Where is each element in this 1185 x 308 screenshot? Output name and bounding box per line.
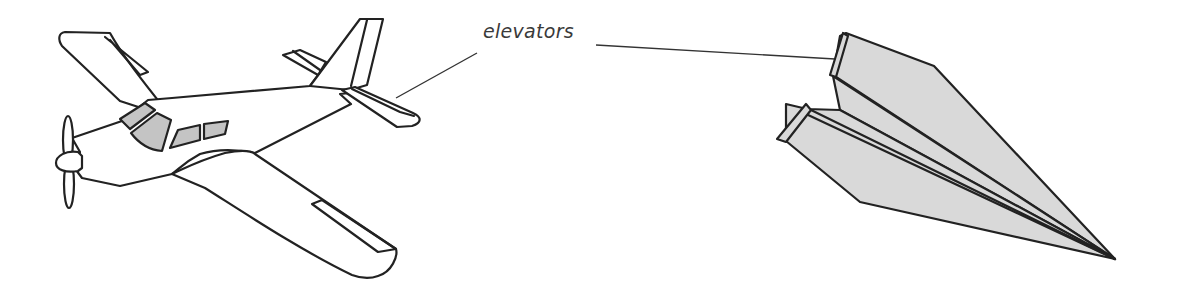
diagram-canvas: elevators: [0, 0, 1185, 308]
elevators-label: elevators: [483, 22, 574, 41]
paper-airplane: [777, 33, 1115, 259]
airplane-tail-fin: [310, 19, 383, 90]
airplane-spinner: [56, 152, 82, 172]
airplane-near-wing: [172, 151, 396, 278]
diagram-art: [0, 0, 1185, 308]
elevators-leader-line-left: [396, 53, 477, 98]
airplane-far-elevator: [283, 50, 326, 75]
airplane: [56, 19, 420, 278]
airplane-near-elevator: [342, 87, 420, 127]
elevators-leader-line-right: [596, 45, 835, 59]
